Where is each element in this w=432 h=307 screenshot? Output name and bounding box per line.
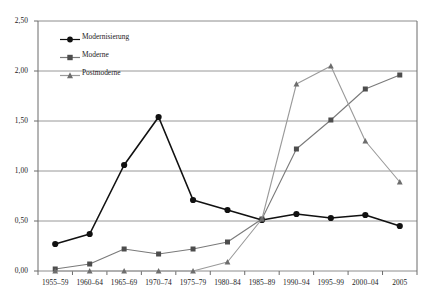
x-axis-tick-label: 1975–79 (180, 278, 207, 287)
data-point-marker (362, 212, 368, 218)
data-point-marker (294, 147, 299, 152)
x-axis-tick-label: 1960–64 (76, 278, 103, 287)
y-axis-tick-label: 2,50 (2, 16, 28, 25)
legend-marker-square-icon (60, 49, 80, 60)
data-point-marker (328, 118, 333, 123)
x-axis-tick-label: 2000–04 (352, 278, 379, 287)
x-axis-tick-label: 1965–69 (111, 278, 138, 287)
data-point-marker (328, 215, 334, 221)
legend-label-moderne: Moderne (82, 50, 109, 59)
data-point-marker (397, 223, 403, 229)
data-point-marker (155, 114, 161, 120)
y-axis-tick-label: 1,50 (2, 116, 28, 125)
data-point-marker (328, 63, 334, 68)
data-point-marker (294, 81, 300, 86)
data-point-marker (52, 241, 58, 247)
data-point-marker (293, 211, 299, 217)
legend-marker-circle-icon (60, 31, 80, 42)
data-point-marker (362, 138, 368, 143)
line-chart: Modernisierung Moderne Postmoderne 2,502… (0, 0, 432, 307)
legend-item-postmoderne: Postmoderne (60, 64, 129, 80)
x-axis-tick-label: 1995–99 (318, 278, 345, 287)
data-point-marker (397, 73, 402, 78)
data-point-marker (190, 197, 196, 203)
x-axis-tick-label: 1980–84 (214, 278, 241, 287)
legend-marker-triangle-icon (60, 67, 80, 78)
x-axis-tick-label: 1985–89 (249, 278, 276, 287)
x-axis-tick-label: 1990–94 (283, 278, 310, 287)
legend-label-modernisierung: Modernisierung (82, 32, 129, 41)
y-axis-tick-label: 2,00 (2, 66, 28, 75)
data-point-marker (191, 247, 196, 252)
legend-label-postmoderne: Postmoderne (82, 68, 121, 77)
legend-item-moderne: Moderne (60, 46, 129, 62)
data-point-marker (225, 240, 230, 245)
legend-item-modernisierung: Modernisierung (60, 28, 129, 44)
chart-legend: Modernisierung Moderne Postmoderne (60, 28, 129, 82)
data-point-marker (363, 87, 368, 92)
data-point-marker (156, 252, 161, 257)
data-point-marker (122, 247, 127, 252)
data-point-marker (87, 262, 92, 267)
data-point-marker (121, 162, 127, 168)
data-point-marker (224, 207, 230, 213)
x-axis-tick-label: 2005 (392, 278, 407, 287)
y-axis-tick-label: 0,00 (2, 266, 28, 275)
series-line (55, 117, 400, 244)
x-axis-tick-label: 1970–74 (145, 278, 172, 287)
y-axis-tick-label: 1,00 (2, 166, 28, 175)
y-axis-tick-label: 0,50 (2, 216, 28, 225)
x-axis-tick-label: 1955–59 (42, 278, 69, 287)
data-point-marker (87, 231, 93, 237)
